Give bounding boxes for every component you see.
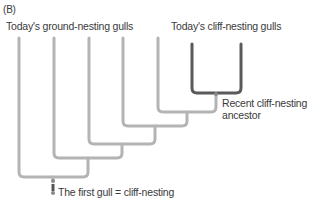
phylogenetic-tree <box>0 0 312 207</box>
recent-ancestor-node <box>214 92 218 96</box>
first-gull-node <box>51 179 55 183</box>
ground-branch-5 <box>158 38 216 112</box>
root-node <box>51 191 55 195</box>
cliff-clade <box>192 44 241 93</box>
state-change-marker <box>52 184 55 191</box>
